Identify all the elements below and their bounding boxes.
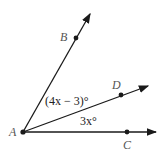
point-d (119, 93, 124, 98)
label-a: A (9, 126, 16, 138)
point-a (20, 129, 25, 134)
label-d: D (112, 79, 121, 91)
label-c: C (123, 139, 131, 151)
angle-diagram: B D A C (4x − 3)° 3x° (0, 0, 166, 155)
label-b: B (60, 31, 67, 43)
angle-dac-label: 3x° (80, 115, 97, 127)
point-b (74, 36, 79, 41)
angle-bad-label: (4x − 3)° (45, 95, 89, 107)
point-c (125, 130, 130, 135)
rays-figure (0, 0, 166, 155)
